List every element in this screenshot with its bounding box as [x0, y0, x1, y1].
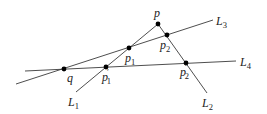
label-L2: L2 — [201, 96, 213, 112]
point-q — [62, 67, 67, 72]
line-L1 — [76, 24, 158, 92]
point-p — [156, 22, 161, 27]
label-L1: L1 — [67, 95, 79, 111]
label-p2-prime: p′2 — [179, 62, 189, 81]
label-L4: L4 — [239, 55, 252, 71]
label-p2: p2 — [159, 38, 170, 54]
point-p1 — [127, 46, 132, 51]
label-q: q — [67, 71, 73, 85]
label-p1: p1 — [124, 51, 135, 67]
projective-lines-diagram: p p2 p1 q p′1 p′2 L3 L4 L1 L2 — [0, 0, 267, 114]
point-p2 — [165, 33, 170, 38]
label-p1-prime: p′1 — [101, 67, 111, 86]
label-p: p — [153, 6, 160, 20]
label-L3: L3 — [215, 14, 227, 30]
